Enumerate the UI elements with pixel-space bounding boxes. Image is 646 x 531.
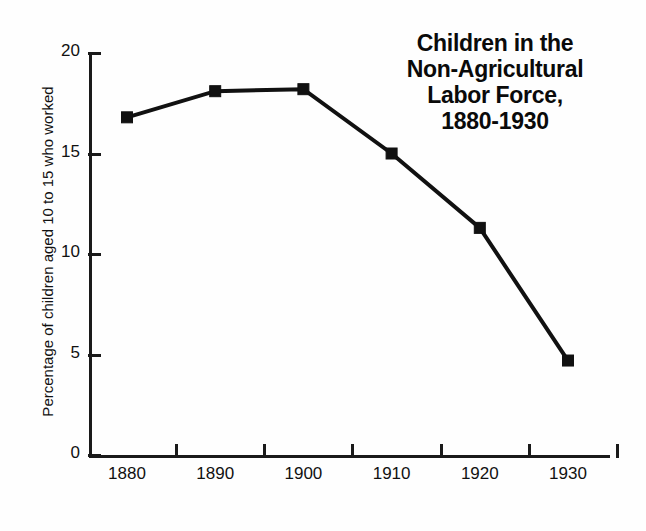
data-point-1900 [298,84,309,95]
series-markers [122,84,574,366]
chart-page: Children in the Non-Agricultural Labor F… [0,0,646,531]
x-tick-label-1910: 1910 [357,464,427,484]
x-tick-label-1880: 1880 [92,464,162,484]
data-point-1920 [474,222,485,233]
data-point-1880 [122,112,133,123]
y-tick-label-15: 15 [40,142,80,162]
series-polyline [127,89,568,360]
y-tick-label-10: 10 [40,242,80,262]
y-tick-label-20: 20 [40,41,80,61]
y-tick-label-0: 0 [40,443,80,463]
x-tick-label-1900: 1900 [268,464,338,484]
x-tick-label-1920: 1920 [445,464,515,484]
data-point-1910 [386,148,397,159]
plot-area: 05101520 188018901900191019201930 [89,52,610,458]
y-tick-label-5: 5 [40,343,80,363]
data-series-line [89,52,610,458]
x-tick-label-1890: 1890 [180,464,250,484]
data-point-1930 [563,355,574,366]
x-tick-1930 [616,444,619,458]
data-point-1890 [210,86,221,97]
x-tick-label-1930: 1930 [533,464,603,484]
